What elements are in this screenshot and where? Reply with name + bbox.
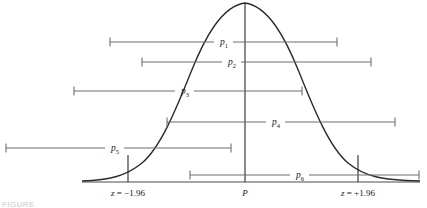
figure-canvas: p1p2p3p4p5p6 z = −1.96 P z = +1.96 <box>0 0 427 208</box>
confidence-interval-p4 <box>167 118 395 127</box>
confidence-interval-p2 <box>142 58 371 67</box>
axis-tick-label-z-upper: z = +1.96 <box>340 188 375 198</box>
figure-caption-fragment: FIGURE <box>2 201 35 208</box>
confidence-interval-p5-label: p5 <box>110 143 119 155</box>
confidence-interval-p6-label: p6 <box>295 170 305 182</box>
confidence-interval-p3-label: p3 <box>180 86 189 98</box>
normal-distribution-figure: p1p2p3p4p5p6 z = −1.96 P z = +1.96 FIGUR… <box>0 0 427 208</box>
confidence-interval-p2-label: p2 <box>227 57 236 69</box>
confidence-interval-p1-label: p1 <box>219 37 228 49</box>
confidence-interval-labels: p1p2p3p4p5p6 <box>110 37 305 182</box>
axis-tick-label-center: P <box>241 188 248 198</box>
normal-curve <box>82 3 420 181</box>
axis-tick-label-z-lower: z = −1.96 <box>110 188 145 198</box>
confidence-interval-group <box>6 38 419 180</box>
confidence-interval-p4-label: p4 <box>271 117 281 129</box>
